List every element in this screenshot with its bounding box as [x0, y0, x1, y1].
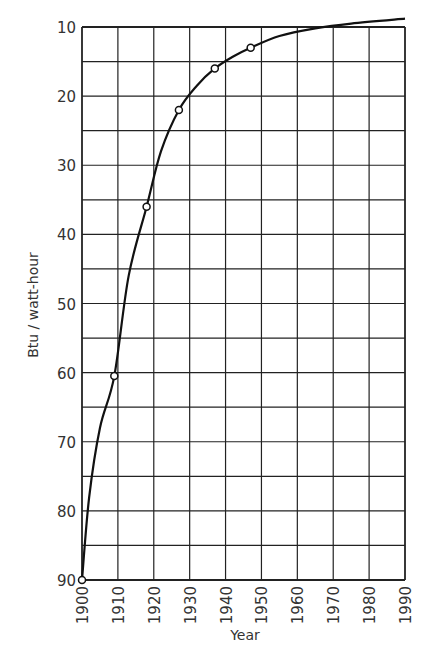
y-tick-label: 30 — [57, 157, 76, 175]
x-tick-label: 1940 — [218, 586, 236, 624]
y-tick-label: 40 — [57, 226, 76, 244]
data-point-marker — [111, 373, 118, 380]
x-tick-label: 1960 — [289, 586, 307, 624]
x-tick-label: 1990 — [397, 586, 415, 624]
x-tick-label: 1970 — [325, 586, 343, 624]
y-tick-label: 10 — [57, 19, 76, 37]
data-point-markers — [79, 44, 255, 583]
y-tick-label: 20 — [57, 88, 76, 106]
data-point-marker — [211, 65, 218, 72]
x-tick-label: 1930 — [182, 586, 200, 624]
x-tick-label: 1950 — [253, 586, 271, 624]
y-tick-label: 70 — [57, 434, 76, 452]
x-tick-label: 1980 — [361, 586, 379, 624]
y-tick-label: 80 — [57, 503, 76, 521]
y-axis-ticks: 102030405060708090 — [57, 19, 76, 590]
heat-rate-curve — [82, 19, 405, 580]
y-axis-label: Btu / watt-hour — [25, 252, 41, 358]
y-tick-label: 50 — [57, 296, 76, 314]
x-tick-label: 1920 — [146, 586, 164, 624]
x-axis-label: Year — [229, 627, 260, 643]
data-point-marker — [143, 203, 150, 210]
x-axis-ticks: 1900191019201930194019501960197019801990 — [74, 586, 415, 624]
heat-rate-chart: 102030405060708090 190019101920193019401… — [0, 0, 436, 670]
data-point-marker — [175, 106, 182, 113]
data-point-marker — [247, 44, 254, 51]
grid — [82, 27, 405, 580]
x-tick-label: 1900 — [74, 586, 92, 624]
y-tick-label: 60 — [57, 365, 76, 383]
data-point-marker — [79, 577, 86, 584]
x-tick-label: 1910 — [110, 586, 128, 624]
